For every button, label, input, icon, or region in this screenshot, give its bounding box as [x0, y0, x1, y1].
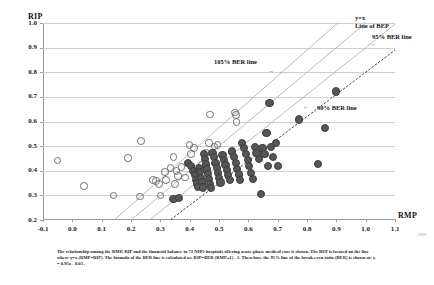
x-axis-title: RMP [398, 211, 417, 220]
data-point-filled [295, 115, 303, 123]
data-point-filled [265, 99, 273, 107]
x-tick-label: 1.1 [382, 226, 408, 233]
y-tick-label: 1.0 [11, 20, 37, 27]
x-tick-label: 0.3 [147, 226, 173, 233]
figure-container: RIP RMP 1.00.90.80.70.60.50.40.30.2 -0.1… [0, 0, 434, 285]
y-tick-label: 0.3 [11, 192, 37, 199]
y-tick-label: 0.9 [11, 44, 37, 51]
arrow-95-ber: ← [371, 41, 377, 47]
data-point-open [80, 182, 88, 190]
annotation-y-equals-x: y=x [355, 14, 365, 22]
x-tick-label: 0.5 [206, 226, 232, 233]
x-tick-label: -0.1 [30, 226, 56, 233]
data-point-filled [332, 87, 340, 95]
data-point-open [171, 180, 179, 188]
data-point-open [136, 193, 144, 201]
data-point-filled [249, 175, 257, 183]
plot-area: 1.00.90.80.70.60.50.40.30.2 -0.10.00.10.… [43, 23, 395, 220]
x-tick-label: 0.2 [118, 226, 144, 233]
data-point-open [214, 141, 222, 149]
x-tick-label: 0.0 [59, 226, 85, 233]
y-tick-label: 0.6 [11, 118, 37, 125]
y-tick-label: 0.7 [11, 93, 37, 100]
x-tick-label: 1.0 [353, 226, 379, 233]
x-tick-label: 0.9 [323, 226, 349, 233]
y-tick-label: 0.5 [11, 143, 37, 150]
x-tick-label: 0.7 [265, 226, 291, 233]
annotation-105-ber-line: 105% BER line [214, 58, 257, 66]
data-point-filled [216, 178, 224, 186]
arrow-105-ber: → [268, 68, 274, 74]
y-tick-label: 0.2 [11, 217, 37, 224]
data-point-filled [260, 150, 268, 158]
data-point-open [233, 118, 241, 126]
x-tick-label: 0.1 [89, 226, 115, 233]
x-tick-label: 0.8 [294, 226, 320, 233]
data-point-filled [207, 184, 215, 192]
annotation-95-ber-line: 95% BER line [372, 33, 412, 41]
data-point-filled [321, 124, 329, 132]
data-point-filled [262, 129, 270, 137]
data-point-open [124, 154, 132, 162]
corner-mark: 2009 [418, 233, 426, 237]
arrow-90-ber: ← [303, 104, 309, 110]
annotation-90-ber-line: 90% BER line [317, 104, 357, 112]
data-point-open [137, 137, 145, 145]
x-tick-label: 0.6 [235, 226, 261, 233]
data-point-filled [257, 190, 265, 198]
y-tick-label: 0.8 [11, 69, 37, 76]
y-tick-label: 0.4 [11, 167, 37, 174]
data-point-open [190, 144, 198, 152]
annotation-line-of-bep: Line of BEP [355, 22, 389, 30]
reference-lines [43, 23, 395, 220]
figure-caption: The relationship among the RMP, RIP and … [57, 249, 377, 268]
x-tick-mark [395, 219, 396, 222]
data-point-open [162, 176, 170, 184]
x-tick-label: 0.4 [177, 226, 203, 233]
